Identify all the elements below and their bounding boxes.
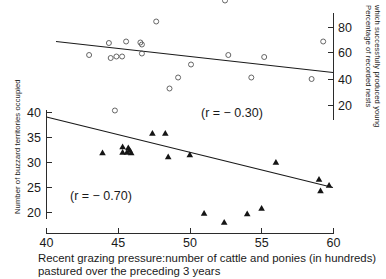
data-point [154, 19, 159, 24]
data-point [258, 205, 265, 211]
data-point [120, 54, 125, 59]
data-point [176, 75, 181, 80]
lower-ytick-label-25: 25 [27, 181, 41, 195]
upper-ytick-label-20: 20 [338, 99, 352, 113]
x-axis-title-line1: Recent grazing pressure:number of cattle… [38, 252, 376, 264]
data-point [114, 54, 119, 59]
upper-panel-points [87, 0, 326, 113]
data-point [201, 210, 208, 216]
x-axis [47, 228, 334, 234]
chart-canvas: 80 60 40 20 Percentage of recorded nests… [0, 0, 386, 279]
xtick-label-50: 50 [183, 236, 197, 250]
lower-panel-axis-title: Number of buzzard territories occupied [13, 79, 22, 214]
data-point [167, 86, 172, 91]
upper-panel-correlation-annotation: (r = − 0.30) [201, 106, 263, 120]
data-point [189, 62, 194, 67]
data-point [99, 150, 106, 156]
data-point [165, 154, 172, 160]
upper-ytick-label-60: 60 [338, 46, 352, 60]
data-point [273, 159, 280, 165]
data-point [119, 144, 126, 150]
data-point [106, 41, 111, 46]
data-point [162, 130, 169, 136]
data-point [223, 0, 228, 3]
upper-ytick-label-80: 80 [338, 21, 352, 35]
data-point [262, 55, 267, 60]
xtick-label-55: 55 [255, 236, 269, 250]
data-point [317, 188, 324, 194]
lower-ytick-label-30: 30 [27, 156, 41, 170]
x-axis-title-line2: pastured over the preceding 3 years [38, 265, 221, 277]
xtick-label-45: 45 [111, 236, 125, 250]
data-point [108, 56, 113, 61]
data-point [124, 39, 129, 44]
upper-panel-axis-title-line1: Percentage of recorded nests [364, 5, 373, 108]
data-point [321, 39, 326, 44]
data-point [326, 182, 333, 188]
scatter-figure: 80 60 40 20 Percentage of recorded nests… [0, 0, 386, 279]
lower-panel-left-axis [47, 110, 53, 219]
lower-panel-points [99, 130, 332, 225]
data-point [139, 51, 144, 56]
data-point [249, 75, 254, 80]
data-point [149, 130, 156, 136]
data-point [244, 211, 251, 217]
data-point [221, 219, 228, 225]
data-point [316, 176, 323, 182]
data-point [309, 77, 314, 82]
lower-ytick-label-35: 35 [27, 131, 41, 145]
data-point [226, 53, 231, 58]
lower-panel-correlation-annotation: (r = − 0.70) [70, 189, 132, 203]
xtick-label-60: 60 [327, 236, 341, 250]
data-point [87, 53, 92, 58]
lower-ytick-label-20: 20 [27, 206, 41, 220]
xtick-label-40: 40 [40, 236, 54, 250]
upper-panel-axis-title-line2: which successfully produced young [373, 4, 382, 127]
upper-ytick-label-40: 40 [338, 73, 352, 87]
upper-panel-right-axis [328, 13, 334, 120]
data-point [112, 108, 117, 113]
upper-panel-fit-line [56, 42, 333, 73]
lower-ytick-label-40: 40 [27, 106, 41, 120]
